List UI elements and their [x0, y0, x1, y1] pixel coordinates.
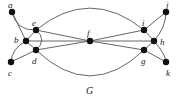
edge-d-f — [36, 41, 90, 50]
edge-d-g — [36, 50, 144, 76]
vertex-label-h: h — [160, 38, 165, 47]
edge-f-g — [90, 41, 144, 50]
vertex-k — [163, 59, 169, 65]
vertex-label-j: j — [166, 1, 169, 10]
vertex-label-b: b — [14, 36, 19, 45]
figure-container: abcdefghijk G — [0, 0, 179, 103]
vertex-f — [87, 38, 93, 44]
vertex-label-d: d — [32, 57, 37, 66]
edge-e-i — [36, 8, 144, 30]
vertex-d — [33, 47, 39, 53]
edge-e-f — [36, 30, 90, 41]
vertex-g — [141, 47, 147, 53]
edge-f-i — [90, 30, 144, 41]
vertex-label-c: c — [8, 69, 12, 78]
vertex-c — [8, 59, 14, 65]
vertex-label-g: g — [141, 57, 146, 66]
vertex-label-k: k — [166, 69, 170, 78]
vertex-label-a: a — [8, 1, 13, 10]
figure-caption: G — [86, 86, 93, 96]
vertex-h — [151, 38, 157, 44]
vertex-label-e: e — [32, 19, 36, 28]
vertex-label-f: f — [87, 29, 90, 38]
vertex-label-i: i — [142, 19, 145, 28]
vertex-b — [23, 38, 29, 44]
